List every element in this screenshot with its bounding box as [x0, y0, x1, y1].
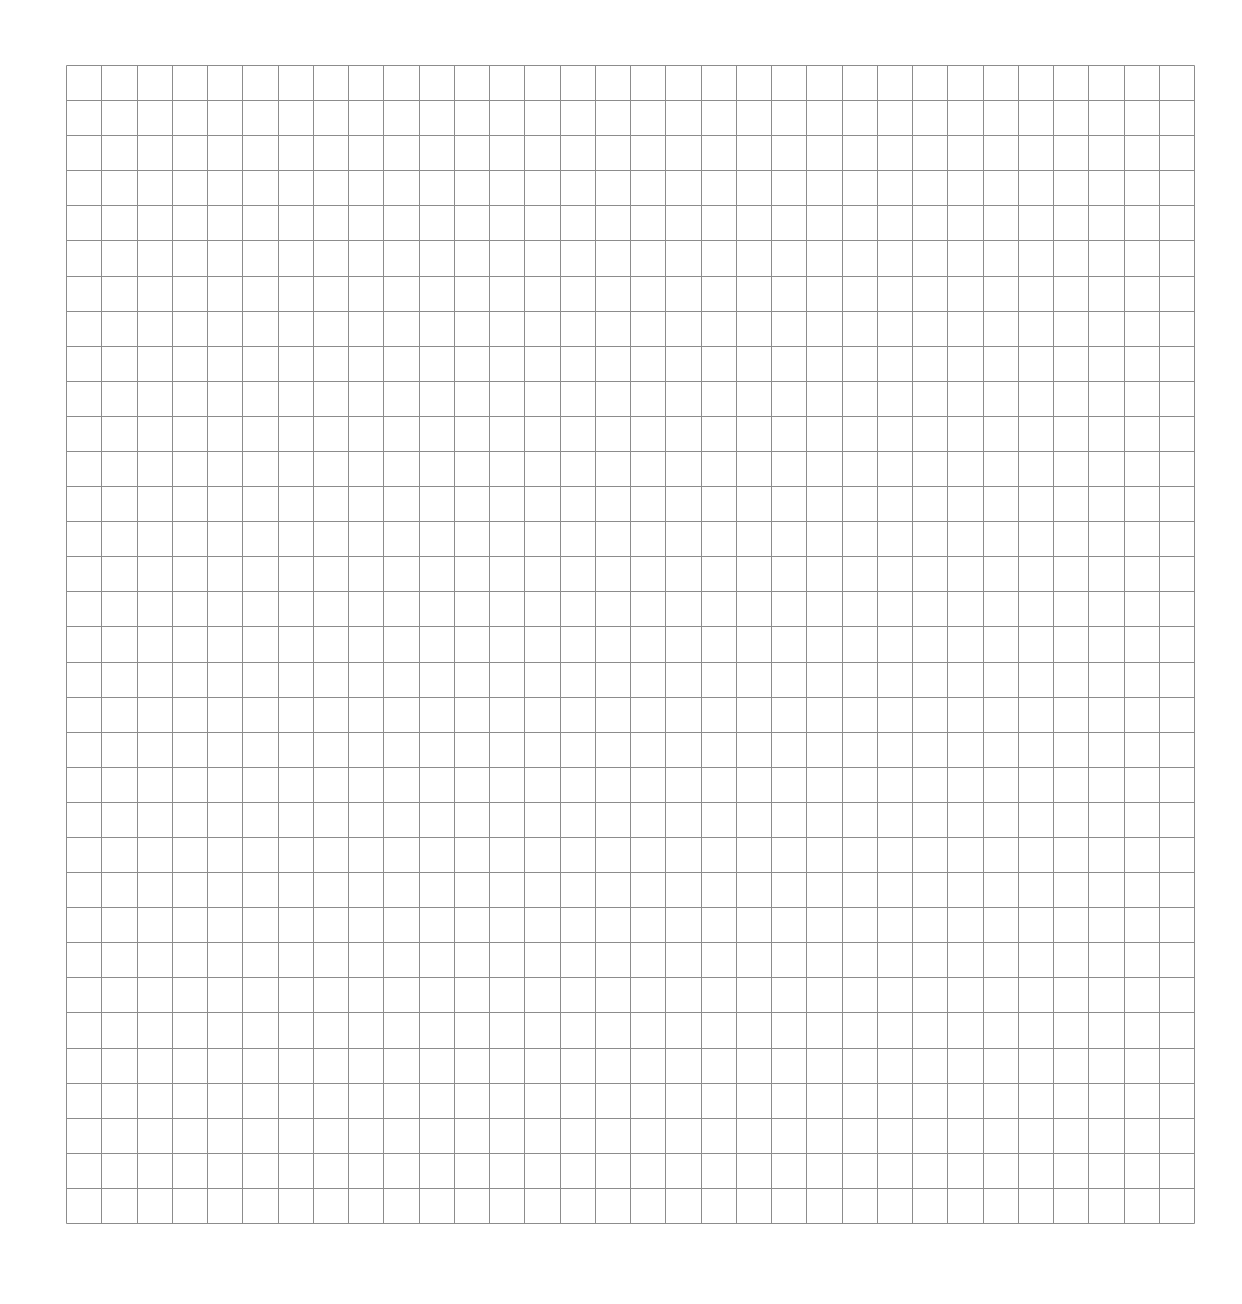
grid-lines	[66, 65, 1195, 1224]
grid-paper	[66, 65, 1194, 1223]
